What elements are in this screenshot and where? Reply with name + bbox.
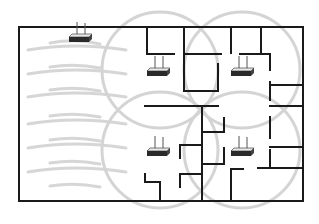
- floor-plan-diagram: [0, 0, 319, 224]
